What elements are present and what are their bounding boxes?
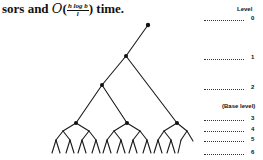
- level-6-number: 6: [251, 149, 254, 155]
- base-level-label: (Base level): [222, 103, 255, 109]
- node-level1: [124, 54, 128, 58]
- level-4-number: 4: [251, 126, 254, 132]
- node-level3-a: [74, 121, 78, 125]
- level-3-guide: [204, 120, 244, 121]
- level-5-guide: [204, 141, 244, 142]
- node-level3-c: [175, 121, 179, 125]
- level-2-guide: [204, 89, 244, 90]
- level-1-guide: [204, 59, 244, 60]
- node-level2: [100, 83, 104, 87]
- tree-diagram: [0, 0, 263, 160]
- node-root: [146, 23, 150, 27]
- level-6-guide: [204, 154, 244, 155]
- level-2-number: 2: [251, 84, 254, 90]
- level-0-number: 0: [251, 15, 254, 21]
- level-1-number: 1: [251, 54, 254, 60]
- level-5-number: 5: [251, 136, 254, 142]
- level-3-number: 3: [251, 115, 254, 121]
- level-header: Level: [237, 6, 252, 12]
- node-level3-b: [125, 121, 129, 125]
- level-4-guide: [204, 131, 244, 132]
- level-0-guide: [204, 20, 244, 21]
